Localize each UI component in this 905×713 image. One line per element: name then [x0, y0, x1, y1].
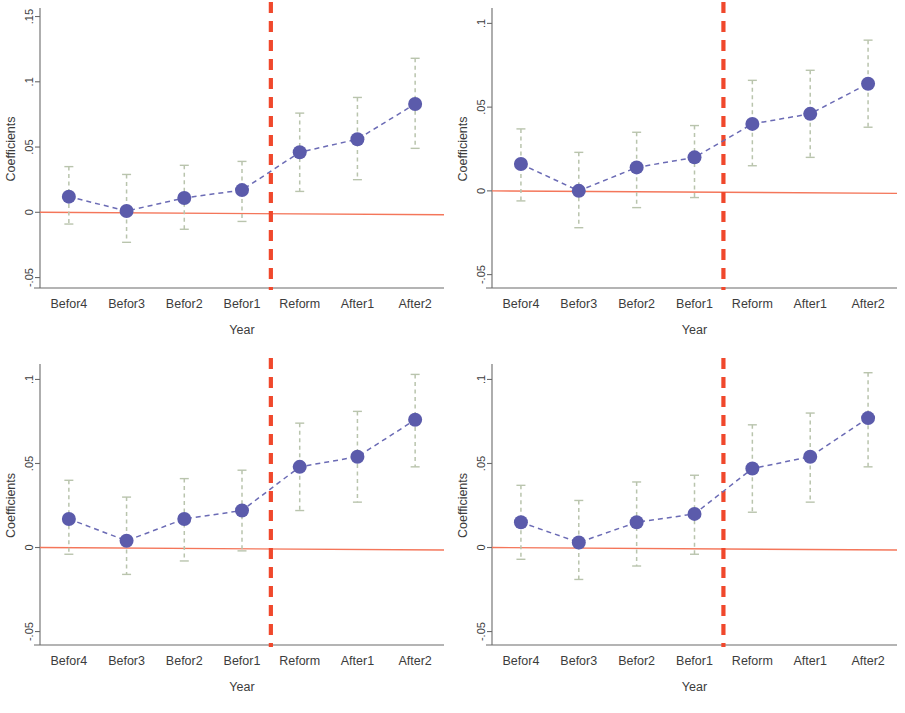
coefficient-point-marker [120, 204, 134, 218]
x-category-label: Befor4 [50, 297, 87, 311]
chart-panel-bottom-left: .1.050-.05CoefficientsBefor4Befor3Befor2… [0, 356, 452, 713]
y-tick-label: 0 [475, 544, 487, 550]
y-tick-label: .1 [23, 375, 35, 384]
x-category-label: Befor1 [224, 654, 261, 668]
chart-panel-bottom-right: .1.050-.05CoefficientsBefor4Befor3Befor2… [452, 356, 905, 713]
coefficient-point-marker [745, 117, 759, 131]
coefficient-point-marker [235, 504, 249, 518]
x-category-label: Reform [732, 297, 773, 311]
y-tick-label: -.05 [475, 622, 487, 641]
x-category-label: Befor2 [618, 297, 655, 311]
x-category-label: After2 [398, 297, 431, 311]
x-category-label: Reform [279, 654, 320, 668]
y-tick-label: .05 [23, 456, 35, 471]
coefficient-plot-bottom-left: .1.050-.05CoefficientsBefor4Befor3Befor2… [0, 356, 452, 713]
y-tick-label: -.05 [23, 622, 35, 641]
y-tick-label: 0 [475, 188, 487, 194]
x-category-label: Befor1 [224, 297, 261, 311]
y-tick-label: .05 [23, 139, 35, 154]
x-category-label: Befor2 [166, 654, 203, 668]
y-tick-label: 0 [23, 544, 35, 550]
y-tick-label: .05 [475, 99, 487, 114]
coefficient-point-marker [235, 183, 249, 197]
figure-panel-grid: .15.1.050-.05CoefficientsBefor4Befor3Bef… [0, 0, 905, 713]
series-line [521, 84, 868, 191]
y-tick-label: .05 [475, 456, 487, 471]
coefficient-plot-top-left: .15.1.050-.05CoefficientsBefor4Befor3Bef… [0, 0, 452, 356]
y-axis-title: Coefficients [456, 116, 470, 181]
coefficient-point-marker [572, 184, 586, 198]
coefficient-point-marker [62, 512, 76, 526]
coefficient-plot-top-right: .1.050-.05CoefficientsBefor4Befor3Befor2… [452, 0, 905, 356]
x-category-label: Befor3 [560, 654, 597, 668]
y-tick-label: 0 [23, 209, 35, 215]
x-category-label: After2 [851, 654, 884, 668]
coefficient-point-marker [514, 515, 528, 529]
x-category-label: After1 [341, 297, 374, 311]
coefficient-point-marker [630, 160, 644, 174]
chart-panel-top-left: .15.1.050-.05CoefficientsBefor4Befor3Bef… [0, 0, 452, 356]
x-category-label: Befor3 [560, 297, 597, 311]
x-category-label: Befor3 [108, 297, 145, 311]
zero-reference-line [492, 548, 897, 551]
x-category-label: After2 [398, 654, 431, 668]
coefficient-point-marker [514, 157, 528, 171]
coefficient-point-marker [572, 535, 586, 549]
y-tick-label: -.05 [23, 268, 35, 287]
zero-reference-line [492, 191, 897, 194]
x-category-label: Befor4 [503, 654, 540, 668]
x-axis-title: Year [682, 680, 707, 694]
x-category-label: Befor4 [50, 654, 87, 668]
x-category-label: Befor2 [166, 297, 203, 311]
y-tick-label: .1 [23, 77, 35, 86]
coefficient-point-marker [62, 190, 76, 204]
coefficient-plot-bottom-right: .1.050-.05CoefficientsBefor4Befor3Befor2… [452, 356, 905, 713]
x-category-label: After1 [341, 654, 374, 668]
y-axis-title: Coefficients [456, 473, 470, 538]
x-category-label: Reform [279, 297, 320, 311]
coefficient-point-marker [293, 145, 307, 159]
coefficient-point-marker [120, 534, 134, 548]
coefficient-point-marker [745, 462, 759, 476]
coefficient-point-marker [861, 77, 875, 91]
x-category-label: Befor1 [676, 297, 713, 311]
coefficient-point-marker [688, 150, 702, 164]
x-category-label: Befor1 [676, 654, 713, 668]
y-tick-label: .1 [475, 375, 487, 384]
coefficient-point-marker [803, 107, 817, 121]
coefficient-point-marker [350, 132, 364, 146]
coefficient-point-marker [688, 507, 702, 521]
y-axis-title: Coefficients [4, 473, 18, 538]
y-tick-label: .1 [475, 19, 487, 28]
x-category-label: Befor3 [108, 654, 145, 668]
chart-panel-top-right: .1.050-.05CoefficientsBefor4Befor3Befor2… [452, 0, 905, 356]
y-tick-label: -.05 [475, 265, 487, 284]
x-category-label: Befor4 [503, 297, 540, 311]
x-category-label: After2 [851, 297, 884, 311]
x-category-label: Reform [732, 654, 773, 668]
coefficient-point-marker [630, 515, 644, 529]
coefficient-point-marker [350, 450, 364, 464]
coefficient-point-marker [861, 411, 875, 425]
y-tick-label: .15 [23, 9, 35, 24]
coefficient-point-marker [177, 191, 191, 205]
coefficient-point-marker [408, 413, 422, 427]
coefficient-point-marker [408, 97, 422, 111]
x-axis-title: Year [682, 323, 707, 337]
x-axis-title: Year [229, 323, 254, 337]
coefficient-point-marker [293, 460, 307, 474]
coefficient-point-marker [177, 512, 191, 526]
x-axis-title: Year [229, 680, 254, 694]
x-category-label: After1 [794, 297, 827, 311]
x-category-label: Befor2 [618, 654, 655, 668]
y-axis-title: Coefficients [4, 116, 18, 181]
x-category-label: After1 [794, 654, 827, 668]
coefficient-point-marker [803, 450, 817, 464]
